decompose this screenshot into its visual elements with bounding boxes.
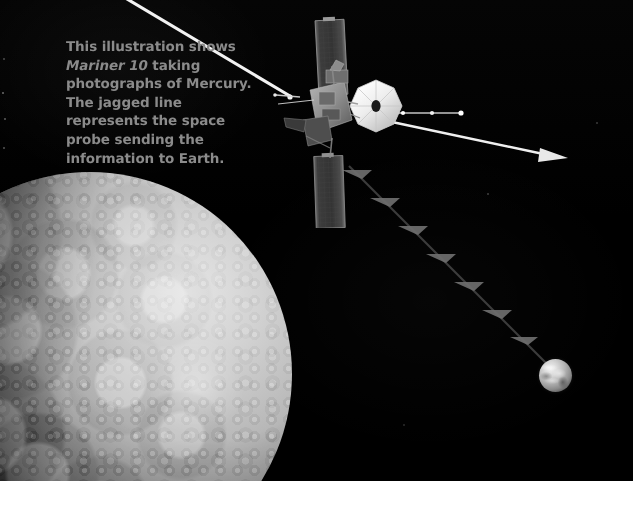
space-photograph: This illustration shows Mariner 10 takin…	[0, 0, 633, 481]
panel-hinge	[322, 153, 334, 157]
instrument-box	[319, 92, 335, 105]
sunshade-vane	[538, 148, 568, 162]
instrument-boom-arm	[284, 118, 306, 132]
panel-hinge	[323, 17, 335, 22]
high-gain-dish-antenna	[348, 80, 402, 132]
caption-spacecraft-name: Mariner 10	[66, 58, 148, 74]
magnetometer-arm	[278, 100, 314, 104]
dish-feed-hub	[371, 100, 380, 112]
lower-solar-panel	[314, 153, 345, 228]
caption-lead: This illustration shows	[66, 39, 236, 55]
thruster-assembly	[326, 70, 348, 83]
illustration-figure: This illustration shows Mariner 10 takin…	[0, 0, 633, 509]
figure-caption: This illustration shows Mariner 10 takin…	[66, 38, 266, 168]
mariner-10-spacecraft	[270, 8, 460, 228]
page-white-band	[0, 481, 633, 509]
